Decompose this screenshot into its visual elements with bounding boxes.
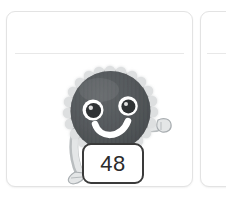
left-eye-icon [83,100,104,121]
screen-canvas: 48 [0,0,226,201]
right-eye-icon [118,96,138,116]
next-card-divider [207,53,226,54]
next-card[interactable] [200,11,226,187]
card-divider [15,53,184,54]
number-badge[interactable]: 48 [82,143,144,184]
number-badge-value: 48 [100,153,125,175]
main-card[interactable]: 48 [6,11,193,187]
